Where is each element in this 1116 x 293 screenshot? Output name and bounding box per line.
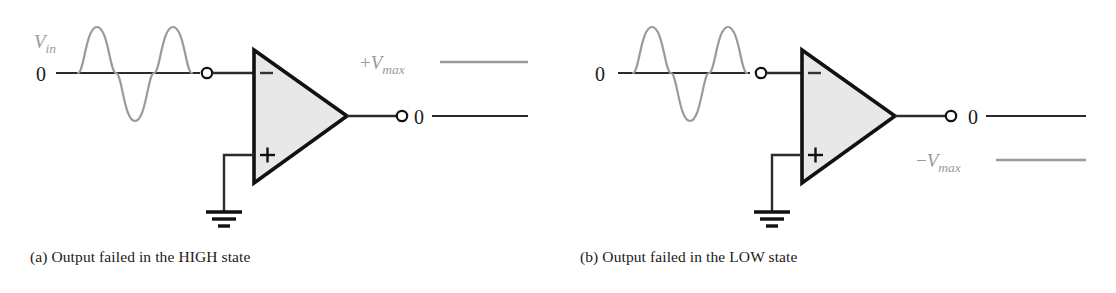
- opamp-triangle-b: [802, 50, 895, 183]
- comparator-failure-figure: Vin 0 +Vmax 0: [0, 0, 1116, 293]
- input-signal-label-a: Vin: [34, 31, 56, 56]
- ground-wire-b: [772, 155, 802, 212]
- output-baseline-label-b: 0: [968, 106, 978, 128]
- input-baseline-label-b: 0: [595, 63, 605, 85]
- panel-a: Vin 0 +Vmax 0: [34, 27, 528, 226]
- output-vmax-label-b: −Vmax: [916, 150, 961, 175]
- input-terminal-node-a: [202, 68, 212, 78]
- output-vmax-label-a: +Vmax: [360, 52, 405, 77]
- ground-symbol-b: [754, 212, 790, 226]
- panel-b: 0 −Vmax 0: [595, 27, 1086, 226]
- ground-symbol-a: [206, 212, 242, 226]
- output-terminal-node-a: [397, 111, 407, 121]
- output-terminal-node-b: [946, 111, 956, 121]
- caption-panel-a: (a) Output failed in the HIGH state: [30, 248, 250, 266]
- opamp-triangle-a: [254, 50, 347, 183]
- input-terminal-node-b: [756, 68, 766, 78]
- input-baseline-label-a: 0: [36, 63, 46, 85]
- ground-wire-a: [224, 155, 254, 212]
- output-baseline-label-a: 0: [414, 106, 424, 128]
- caption-panel-b: (b) Output failed in the LOW state: [580, 248, 797, 266]
